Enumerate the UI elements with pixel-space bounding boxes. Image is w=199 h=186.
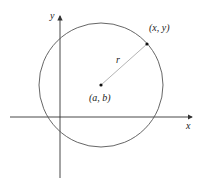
y-axis-label: y <box>49 10 55 21</box>
radius-label: r <box>116 54 120 65</box>
radius-line <box>101 44 147 85</box>
circle-point <box>145 42 148 45</box>
point-label: (x, y) <box>149 22 170 34</box>
center-label: (a, b) <box>89 92 111 104</box>
center-point <box>99 83 102 86</box>
circle-diagram: y x (x, y) r (a, b) <box>0 0 199 186</box>
x-axis-label: x <box>185 120 191 131</box>
